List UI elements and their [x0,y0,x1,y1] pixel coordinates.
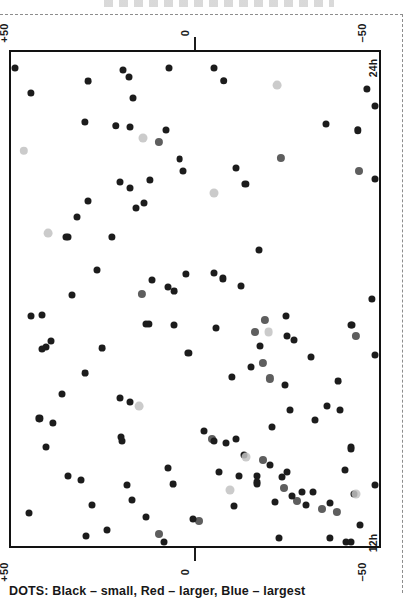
bottom-zero-tick [194,548,196,561]
scatter-dot [88,501,95,508]
scatter-dot [368,295,375,302]
scatter-dot [119,67,126,74]
scatter-dot [28,90,35,97]
scatter-dot [49,419,56,426]
scatter-dot [242,180,249,187]
scatter-dot [266,374,274,382]
scatter-dot [176,156,183,163]
scatter-dot [82,370,89,377]
scatter-dot [363,85,370,92]
scatter-dot [323,121,330,128]
scatter-dot [327,499,334,506]
scatter-dot [277,154,285,162]
scatter-dot [164,464,171,471]
scatter-dot [341,467,348,474]
scatter-dot [166,65,173,72]
scatter-dot [142,514,149,521]
axis-label-top-left: +50 [0,23,10,42]
axis-label-top-right: –50 [356,24,368,43]
scatter-dot [129,94,136,101]
scatter-dot [220,77,228,85]
scatter-dot [324,403,331,410]
scatter-dot [267,461,274,468]
scatter-dot [212,324,219,331]
scatter-dot [39,346,46,353]
scatter-dot [11,65,18,72]
scatter-dot [291,337,298,344]
scatter-dot [259,359,267,367]
scatter-dot [155,138,163,146]
scatter-dot [251,328,259,336]
axis-label-top-zero: 0 [179,30,191,36]
scatter-dot [74,213,81,220]
scatter-dot [20,147,28,155]
scatter-dot [257,343,264,350]
scatter-dot [273,81,282,90]
scatter-dot [247,363,254,370]
scatter-dot [180,168,187,175]
scatter-dot [43,444,50,451]
scatter-dot [98,345,105,352]
scatter-dot [289,492,296,499]
scatter-dot [160,538,167,545]
scatter-dot [335,378,342,385]
scatter-dot [211,65,218,72]
scatter-dot [333,507,341,515]
axis-label-bottom-zero: 0 [179,569,191,575]
scatter-dot [116,394,123,401]
scatter-dot [26,510,33,517]
scatter-dot [348,322,355,329]
scatter-dot [347,445,354,452]
scatter-dot [43,229,52,238]
scatter-dot [286,407,293,414]
scatter-dot [182,271,189,278]
scatter-dot [355,167,363,175]
scatter-dot [275,534,282,541]
scatter-dot [232,436,239,443]
scatter-dot [94,267,101,274]
scatter-dot [210,269,217,276]
scatter-dot [261,316,269,324]
scatter-dot [133,205,140,212]
scatter-dot [118,433,125,440]
scatter-dot [237,283,244,290]
scatter-dot [84,198,91,205]
scatter-dot [241,452,250,461]
scatter-dot [307,353,314,360]
scatter-dot [351,489,360,498]
scatter-dot [219,275,226,282]
scatter-dot [81,118,88,125]
scatter-dot [116,178,123,185]
scatter-dot [124,482,131,489]
scatter-dot [254,472,261,479]
scatter-dot [155,530,163,538]
scatter-dot [236,473,243,480]
scatter-dot [337,407,344,414]
scatter-dot [209,189,218,198]
scatter-dot [109,234,116,241]
scatter-dot [170,481,177,488]
figure-caption: DOTS: Black – small, Red – larger, Blue … [9,584,305,598]
scatter-dot [352,332,360,340]
scatter-dot [310,489,317,496]
scatter-dot [39,312,46,319]
scatter-dot [129,497,136,504]
scatter-dot [269,423,276,430]
scatter-dot [77,477,84,484]
scatter-dot [228,374,235,381]
scatter-dot [284,333,291,340]
axis-label-12h: 12h [367,534,379,553]
scatter-dot [312,417,319,424]
scatter-dot [64,473,71,480]
scatter-dot [103,526,110,533]
scatter-dot [83,532,90,539]
scatter-dot [356,522,363,529]
cut-off-text-sliver [104,0,334,7]
scatter-dot [141,200,148,207]
scatter-dot [280,484,288,492]
scatter-dot [190,516,197,523]
scatter-dot [139,134,148,143]
scatter-dot [279,473,286,480]
scatter-dot [256,246,263,253]
scatter-dot [135,402,144,411]
